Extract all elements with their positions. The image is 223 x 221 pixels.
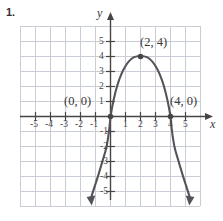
- y-tick-2: 2: [99, 81, 104, 91]
- x-tick--2: -2: [75, 119, 83, 129]
- y-axis-label: y: [97, 6, 102, 21]
- origin-intercept-label: (0, 0): [64, 94, 91, 109]
- x-tick--4: -4: [45, 119, 53, 129]
- y-tick--3: -3: [100, 156, 108, 166]
- x-tick-4: 4: [168, 119, 173, 129]
- x-tick--1: -1: [90, 119, 98, 129]
- right-intercept-label: (4, 0): [170, 94, 197, 109]
- y-tick--4: -4: [100, 171, 108, 181]
- y-tick-5: 5: [99, 36, 104, 46]
- x-tick--5: -5: [30, 119, 38, 129]
- x-tick-5: 5: [183, 119, 188, 129]
- y-tick-1: 1: [99, 96, 104, 106]
- y-tick--1: -1: [100, 126, 108, 136]
- y-tick--2: -2: [100, 141, 108, 151]
- x-tick-3: 3: [153, 119, 158, 129]
- vertex-label: (2, 4): [140, 35, 167, 50]
- y-tick-3: 3: [99, 66, 104, 76]
- x-tick--3: -3: [60, 119, 68, 129]
- x-tick-2: 2: [138, 119, 143, 129]
- graph-figure: [0, 0, 223, 221]
- y-tick--5: -5: [100, 186, 108, 196]
- x-axis-label: x: [210, 117, 215, 132]
- x-tick-1: 1: [123, 119, 128, 129]
- y-tick-4: 4: [99, 51, 104, 61]
